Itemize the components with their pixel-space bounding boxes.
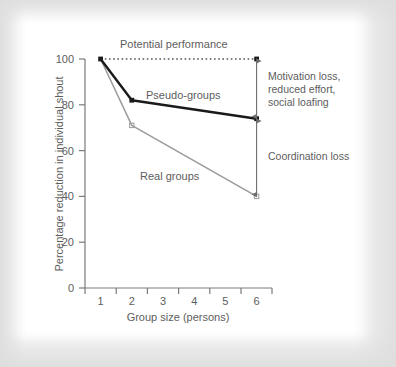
y-axis: [79, 59, 85, 288]
motivation-loss-line-3: social loafing: [268, 96, 329, 108]
x-tick-label-1: 1: [98, 295, 104, 307]
x-tick-label-6: 6: [254, 295, 260, 307]
pseudo-groups-marker-6: [254, 116, 259, 121]
pseudo-groups-label: Pseudo-groups: [146, 89, 221, 101]
motivation-loss-line-2: reduced effort,: [268, 83, 336, 95]
x-axis: [85, 288, 272, 294]
motivation-loss-line-1: Motivation loss,: [268, 70, 340, 82]
x-tick-label-4: 4: [191, 295, 197, 307]
potential-performance-label: Potential performance: [120, 38, 228, 50]
x-tick-label-2: 2: [129, 295, 135, 307]
y-axis-title: Percentage reduction in individual shout: [53, 76, 65, 271]
x-tick-label-3: 3: [160, 295, 166, 307]
real-groups-label: Real groups: [140, 170, 200, 182]
coordination-loss-label: Coordination loss: [268, 150, 349, 162]
pseudo-groups-marker-2: [129, 98, 134, 103]
figure-root: 100 80 60 40 20 0 1 2 3 4 5 6 Group size…: [0, 0, 396, 367]
line-chart: 100 80 60 40 20 0 1 2 3 4 5 6 Group size…: [0, 0, 396, 367]
annotation-coordination-loss: Coordination loss: [257, 121, 350, 195]
annotation-motivation-loss: Motivation loss, reduced effort, social …: [257, 61, 341, 117]
y-tick-label-100: 100: [56, 53, 74, 65]
x-tick-label-5: 5: [222, 295, 228, 307]
y-tick-label-0: 0: [68, 282, 74, 294]
potential-marker-end: [254, 57, 259, 62]
series-potential-performance: [98, 57, 259, 62]
x-axis-title: Group size (persons): [127, 311, 230, 323]
